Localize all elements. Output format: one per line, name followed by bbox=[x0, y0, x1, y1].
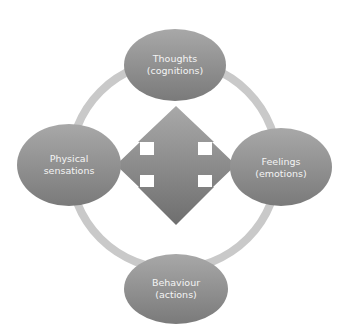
node-label-feelings: Feelings (emotions) bbox=[230, 143, 332, 193]
four-way-arrow-icon bbox=[116, 106, 236, 225]
node-label-thoughts: Thoughts (cognitions) bbox=[124, 40, 226, 90]
node-label-physical-sensations: Physical sensations bbox=[17, 140, 121, 190]
node-label-line1: Thoughts bbox=[153, 53, 197, 65]
node-label-behaviour: Behaviour (actions) bbox=[124, 264, 228, 314]
node-label-line2: sensations bbox=[44, 165, 95, 177]
node-label-line2: (actions) bbox=[155, 289, 197, 301]
node-label-line1: Physical bbox=[50, 153, 89, 165]
node-label-line1: Feelings bbox=[262, 156, 301, 168]
node-label-line2: (cognitions) bbox=[147, 65, 203, 77]
node-label-line1: Behaviour bbox=[152, 277, 200, 289]
node-label-line2: (emotions) bbox=[255, 168, 306, 180]
